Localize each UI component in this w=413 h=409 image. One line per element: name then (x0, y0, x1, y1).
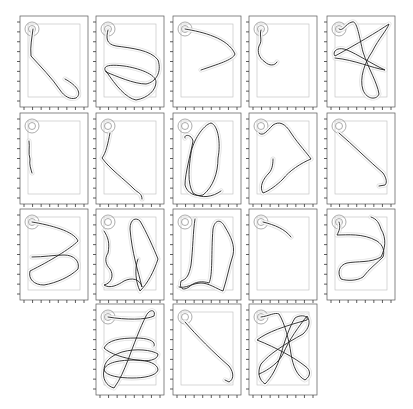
trajectory-panel-9 (245, 113, 317, 209)
trajectory-panel-7 (92, 113, 164, 209)
trajectory-panel-4 (245, 16, 317, 112)
trajectory-panel-3 (169, 16, 241, 112)
trajectory-panel-11 (16, 209, 88, 305)
plot-frame (327, 113, 395, 204)
trajectory-panel-5 (323, 16, 395, 112)
trajectory-panel-14 (245, 209, 317, 305)
trajectory-panel-10 (323, 113, 395, 209)
trajectory-panel-18 (245, 304, 317, 400)
trajectory-panel-1 (16, 16, 88, 112)
trajectory-panel-12 (92, 209, 164, 305)
trajectory-panel-15 (323, 209, 395, 305)
trajectory-panel-2 (92, 16, 164, 112)
plot-frame (249, 209, 317, 300)
trajectory-panel-17 (169, 304, 241, 400)
trajectory-panel-6 (16, 113, 88, 209)
plot-frame (96, 113, 164, 204)
trajectory-panel-13 (169, 209, 241, 305)
trajectory-panel-8 (169, 113, 241, 209)
trajectory-panel-16 (92, 304, 164, 400)
